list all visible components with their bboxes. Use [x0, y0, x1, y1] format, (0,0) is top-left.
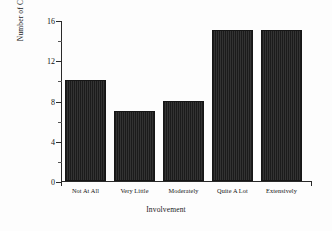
- x-axis-title: Involvement: [0, 205, 332, 214]
- y-tick-mark: [56, 142, 62, 143]
- y-tick-label: 8: [51, 97, 55, 106]
- y-tick-mark: [56, 21, 62, 22]
- bar: [65, 80, 106, 181]
- y-tick-label: 16: [47, 17, 55, 26]
- y-minor-tick: [58, 41, 62, 42]
- y-axis-title: Number of Cases: [14, 0, 28, 64]
- y-minor-tick: [58, 122, 62, 123]
- x-tick-label: Moderately: [163, 187, 204, 194]
- bar: [212, 30, 253, 181]
- y-tick-label: 4: [51, 137, 55, 146]
- x-tick-mark: [61, 182, 62, 186]
- plot-area: 0481216 Not At AllVery LittleModeratelyQ…: [61, 21, 312, 182]
- x-tick-label: Quite A Lot: [212, 187, 253, 194]
- y-tick-label: 0: [51, 178, 55, 187]
- bar: [261, 30, 302, 181]
- bar: [163, 101, 204, 182]
- bar-chart-figure: Number of Cases 0481216 Not At AllVery L…: [0, 0, 332, 231]
- y-tick-mark: [56, 102, 62, 103]
- bar: [114, 111, 155, 181]
- x-tick-label: Extensively: [261, 187, 302, 194]
- x-axis-line: [61, 181, 312, 182]
- x-tick-label: Very Little: [114, 187, 155, 194]
- x-tick-mark: [311, 182, 312, 186]
- x-tick-label: Not At All: [65, 187, 106, 194]
- y-minor-tick: [58, 81, 62, 82]
- y-tick-label: 12: [47, 57, 55, 66]
- y-tick-mark: [56, 61, 62, 62]
- y-minor-tick: [58, 162, 62, 163]
